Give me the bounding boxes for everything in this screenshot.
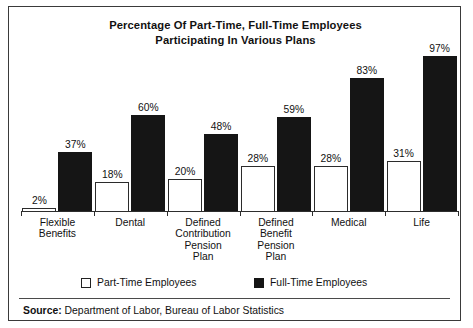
bar-rect [387, 161, 421, 211]
bar-rect [350, 78, 384, 211]
bar-value-label: 83% [343, 65, 391, 76]
bar-rect [131, 115, 165, 211]
source-text: Department of Labor, Bureau of Labor Sta… [62, 305, 284, 316]
category-label: Dental [94, 217, 167, 228]
white-square-icon [81, 278, 91, 288]
axis-tick [385, 211, 386, 216]
bar-rect [58, 152, 92, 211]
legend-item-label: Part-Time Employees [97, 277, 197, 288]
category-label-line: Plan [167, 251, 240, 262]
bar-part-time: 31% [387, 161, 421, 211]
category-label-line: Benefits [21, 228, 94, 239]
bar-value-label: 59% [270, 104, 318, 115]
bar-value-label: 28% [234, 153, 282, 164]
legend-item-label: Full-Time Employees [270, 277, 367, 288]
bar-part-time: 20% [168, 179, 202, 211]
bar-value-label: 18% [88, 169, 136, 180]
category-label-line: Defined [240, 217, 313, 228]
bar-part-time: 18% [95, 182, 129, 211]
bar-rect [423, 56, 457, 211]
axis-tick [94, 211, 95, 216]
category-label-line: Pension [167, 240, 240, 251]
bar-value-label: 37% [51, 139, 99, 150]
legend-item-part-time: Part-Time Employees [81, 277, 197, 288]
bar-value-label: 31% [380, 148, 428, 159]
category-label-line: Pension [240, 240, 313, 251]
category-label: Medical [312, 217, 385, 228]
bar-rect [22, 208, 56, 211]
category-label-line: Plan [240, 251, 313, 262]
category-label-line: Contribution [167, 228, 240, 239]
bar-rect [204, 134, 238, 211]
bar-part-time: 28% [314, 166, 348, 211]
source-divider-rule [19, 298, 450, 299]
bar-part-time: 28% [241, 166, 275, 211]
axis-tick [458, 211, 459, 216]
chart-title-line-1: Percentage Of Part-Time, Full-Time Emplo… [9, 18, 462, 33]
bar-value-label: 2% [15, 195, 63, 206]
bar-value-label: 20% [161, 166, 209, 177]
category-label-line: Medical [312, 217, 385, 228]
bar-rect [241, 166, 275, 211]
chart-title-line-2: Participating In Various Plans [9, 33, 462, 48]
bar-value-label: 48% [197, 121, 245, 132]
axis-tick [312, 211, 313, 216]
bar-full-time: 83% [350, 78, 384, 211]
chart-title: Percentage Of Part-Time, Full-Time Emplo… [9, 18, 462, 47]
category-label: DefinedBenefitPensionPlan [240, 217, 313, 263]
chart-figure-frame: Percentage Of Part-Time, Full-Time Emplo… [8, 6, 461, 321]
category-label-line: Benefit [240, 228, 313, 239]
category-label-line: Defined [167, 217, 240, 228]
category-label-line: Flexible [21, 217, 94, 228]
bar-value-label: 60% [124, 102, 172, 113]
bar-rect [168, 179, 202, 211]
bar-full-time: 48% [204, 134, 238, 211]
legend-item-full-time: Full-Time Employees [254, 277, 367, 288]
bar-full-time: 37% [58, 152, 92, 211]
category-label: DefinedContributionPensionPlan [167, 217, 240, 263]
source-label: Source: [23, 305, 62, 316]
bar-value-label: 28% [307, 153, 355, 164]
category-label: FlexibleBenefits [21, 217, 94, 240]
black-square-icon [254, 278, 264, 288]
bar-part-time: 2% [22, 208, 56, 211]
category-label-line: Dental [94, 217, 167, 228]
bar-rect [95, 182, 129, 211]
bar-full-time: 97% [423, 56, 457, 211]
axis-tick [240, 211, 241, 216]
axis-tick [167, 211, 168, 216]
bar-full-time: 60% [131, 115, 165, 211]
bar-rect [314, 166, 348, 211]
chart-legend: Part-Time EmployeesFull-Time Employees [9, 277, 462, 293]
source-note: Source: Department of Labor, Bureau of L… [23, 304, 284, 317]
category-label: Life [385, 217, 458, 228]
category-label-line: Life [385, 217, 458, 228]
axis-tick [21, 211, 22, 216]
bar-value-label: 97% [416, 43, 464, 54]
